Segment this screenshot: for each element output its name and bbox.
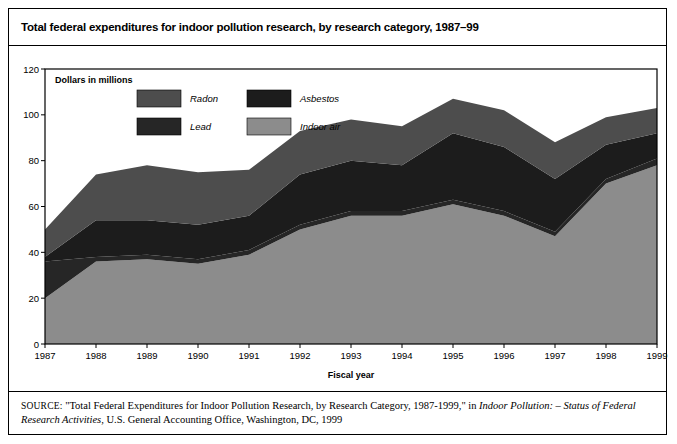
- chart-area: 020406080100120 Dollars in millions Rado…: [9, 46, 668, 391]
- x-tick-label: 1989: [136, 350, 157, 361]
- legend-swatch-indoor-air: [247, 118, 291, 135]
- legend-label-radon: Radon: [190, 93, 218, 104]
- x-axis-title: Fiscal year: [328, 370, 375, 380]
- page-title: Total federal expenditures for indoor po…: [21, 20, 641, 34]
- x-tick-label: 1991: [238, 350, 259, 361]
- x-tick-label: 1998: [595, 350, 616, 361]
- legend-label-indoor-air: Indoor air: [300, 121, 341, 132]
- x-tick-label: 1996: [493, 350, 514, 361]
- legend-label-asbestos: Asbestos: [299, 93, 339, 104]
- y-tick-label: 20: [28, 293, 39, 304]
- x-tick-label: 1994: [391, 350, 412, 361]
- y-tick-label: 0: [34, 339, 39, 350]
- x-tick-label: 1992: [289, 350, 310, 361]
- y-tick-label: 100: [23, 109, 39, 120]
- legend-swatch-lead: [137, 118, 181, 135]
- stacked-area-chart: 020406080100120 Dollars in millions Rado…: [9, 46, 668, 391]
- y-tick-label: 120: [23, 64, 39, 75]
- x-tick-label: 1997: [544, 350, 565, 361]
- x-tick-label: 1987: [34, 350, 55, 361]
- x-tick-label: 1988: [85, 350, 106, 361]
- source-text-part-2: , U.S. General Accounting Office, Washin…: [101, 414, 342, 425]
- x-axis-ticks: 1987198819891990199119921993199419951996…: [34, 344, 667, 361]
- source-text-part-1: "Total Federal Expenditures for Indoor P…: [65, 400, 479, 411]
- y-tick-label: 80: [28, 155, 39, 166]
- x-tick-label: 1995: [442, 350, 463, 361]
- legend-swatch-asbestos: [247, 90, 291, 107]
- source-label: SOURCE:: [21, 401, 63, 411]
- source-divider: [9, 391, 666, 392]
- x-tick-label: 1999: [646, 350, 667, 361]
- y-tick-label: 60: [28, 201, 39, 212]
- x-tick-label: 1990: [187, 350, 208, 361]
- units-note: Dollars in millions: [55, 75, 133, 85]
- source-note: SOURCE: "Total Federal Expenditures for …: [21, 399, 655, 426]
- figure-container: Total federal expenditures for indoor po…: [8, 8, 667, 435]
- legend-label-lead: Lead: [190, 121, 212, 132]
- x-tick-label: 1993: [340, 350, 361, 361]
- y-tick-label: 40: [28, 247, 39, 258]
- y-axis-ticks: 020406080100120: [23, 64, 39, 350]
- legend-swatch-radon: [137, 90, 181, 107]
